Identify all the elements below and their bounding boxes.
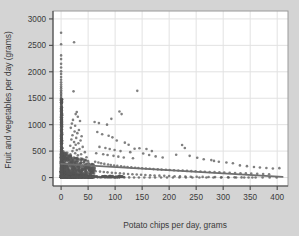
x-tick-label: 200 — [162, 193, 176, 202]
y-axis-title: Fruit and vegetables per day (grams) — [3, 31, 13, 169]
x-tick-label: 400 — [270, 193, 284, 202]
x-axis-title: Potato chips per day, grams — [123, 220, 227, 230]
y-tick-label: 2000 — [28, 68, 47, 77]
x-tick-label: 250 — [189, 193, 203, 202]
x-tick-label: 50 — [84, 193, 94, 202]
y-tick-label: 2500 — [28, 41, 47, 50]
x-tick-label: 0 — [59, 193, 64, 202]
x-tick-label: 350 — [243, 193, 257, 202]
y-tick-label: 3000 — [28, 15, 47, 24]
x-axis-tick-labels: 050100150200250300350400 — [59, 193, 285, 202]
y-tick-label: 1000 — [28, 121, 47, 130]
y-tick-label: 1500 — [28, 94, 47, 103]
y-tick-label: 500 — [32, 147, 46, 156]
x-tick-label: 300 — [216, 193, 230, 202]
x-tick-label: 100 — [108, 193, 122, 202]
scatter-plot-figure: 050100150200250300350400 050010001500200… — [0, 0, 299, 236]
chart-canvas: 050100150200250300350400 050010001500200… — [0, 0, 299, 236]
y-tick-label: 0 — [41, 174, 46, 183]
x-tick-label: 150 — [135, 193, 149, 202]
